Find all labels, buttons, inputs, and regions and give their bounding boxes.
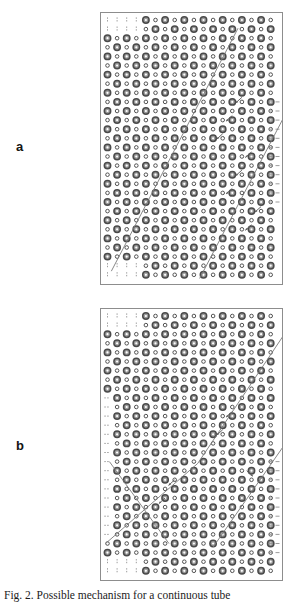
panel-a-label: a [16,139,23,154]
panel-a-plot [101,13,282,284]
figure-caption-text: Possible mechanism for a continuous tube [37,589,231,601]
panel-a-lattice [101,13,282,284]
panel-b-plot [101,309,282,580]
panel-b [100,308,283,581]
figure-number: Fig. 2. [4,589,34,601]
panel-b-label: b [16,438,24,453]
panel-b-lattice [101,309,282,580]
panel-a [100,12,283,285]
figure-caption: Fig. 2. Possible mechanism for a continu… [4,588,296,603]
